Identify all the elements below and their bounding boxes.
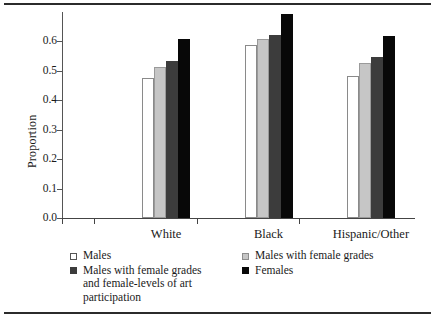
y-axis-tick-mark: [57, 41, 62, 42]
bar: [178, 39, 190, 219]
y-axis-tick-label: 0.4: [43, 95, 57, 107]
y-axis-tick-mark: [57, 100, 62, 101]
bar: [281, 14, 293, 218]
y-axis-tick-label: 0.2: [43, 153, 57, 165]
y-axis-tick-mark: [57, 130, 62, 131]
bar-group: [142, 12, 190, 218]
legend-entry[interactable]: Males with female grades and female-leve…: [70, 264, 235, 305]
y-axis-line: [62, 12, 63, 219]
bar-group: [245, 12, 293, 218]
legend-entry-label: Males: [83, 249, 235, 263]
bar: [359, 63, 371, 218]
filled-square-black-icon: [242, 267, 249, 274]
y-axis-tick-label: 0.1: [43, 183, 57, 195]
open-square-white-icon: [70, 253, 77, 260]
bar-group: [347, 12, 395, 218]
legend-entry[interactable]: Females: [242, 264, 422, 278]
legend-entry-label: Males with female grades and female-leve…: [83, 264, 235, 305]
y-axis-tick-label: 0.0: [43, 212, 57, 224]
x-axis-tick-mark: [197, 219, 198, 224]
top-divider-rule: [4, 3, 431, 5]
bar: [245, 45, 257, 218]
legend-column: Males with female gradesFemales: [242, 249, 422, 278]
chart-figure: Proportion 0.00.10.20.30.40.50.6 WhiteBl…: [0, 0, 435, 324]
legend-entry[interactable]: Males with female grades: [242, 249, 422, 263]
bottom-divider-rule: [4, 312, 431, 314]
filled-square-dark-gray-icon: [70, 267, 77, 274]
bar: [154, 67, 166, 218]
x-axis-tick-mark: [299, 219, 300, 224]
bar: [347, 76, 359, 218]
x-axis-label-black: Black: [254, 227, 283, 242]
x-axis-label-hispanic-other: Hispanic/Other: [333, 227, 409, 242]
bar: [269, 35, 281, 218]
x-axis-tick-mark: [94, 219, 95, 224]
bar: [166, 61, 178, 218]
y-axis-tick-mark: [57, 189, 62, 190]
y-axis-title: Proportion: [11, 50, 27, 170]
bar: [142, 78, 154, 218]
legend-entry-label: Males with female grades: [255, 249, 422, 263]
legend-entry-label: Females: [255, 264, 422, 278]
x-axis-tick-mark: [62, 219, 63, 224]
bar: [383, 36, 395, 218]
y-axis-tick-label: 0.6: [43, 36, 57, 48]
bar: [257, 39, 269, 218]
filled-square-light-gray-icon: [242, 253, 249, 260]
x-axis-label-white: White: [151, 227, 182, 242]
legend-entry[interactable]: Males: [70, 249, 235, 263]
y-axis-tick-label: 0.5: [43, 65, 57, 77]
y-axis-tick-label: 0.3: [43, 124, 57, 136]
y-axis-title-label: Proportion: [25, 115, 40, 168]
bar: [371, 57, 383, 218]
plot-area: 0.00.10.20.30.40.50.6 WhiteBlackHispanic…: [62, 12, 415, 219]
x-axis-line: [62, 218, 415, 219]
y-axis-tick-mark: [57, 159, 62, 160]
y-axis-tick-mark: [57, 71, 62, 72]
legend-column: MalesMales with female grades and female…: [70, 249, 235, 305]
